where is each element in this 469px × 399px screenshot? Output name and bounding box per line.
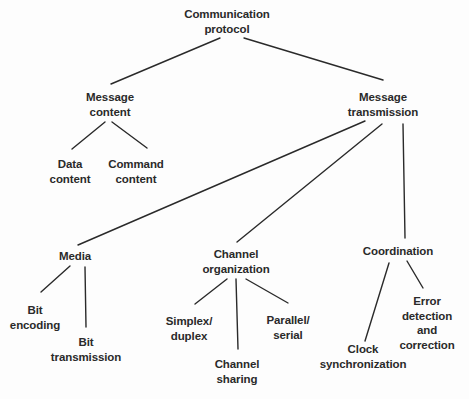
- edge-coordination-error-detection: [407, 261, 423, 288]
- node-bit-encoding: Bit encoding: [10, 303, 60, 332]
- node-channel-organization: Channel organization: [202, 247, 269, 276]
- node-bit-transmission: Bit transmission: [51, 335, 121, 364]
- edge-message-transmission-channel-organization: [237, 124, 382, 242]
- edge-message-content-data-content: [72, 122, 105, 149]
- node-communication-protocol: Communication protocol: [184, 7, 270, 36]
- node-media: Media: [59, 249, 91, 264]
- edge-channel-organization-parallel-serial: [246, 279, 288, 303]
- edge-message-content-command-content: [112, 122, 147, 148]
- node-coordination: Coordination: [363, 244, 433, 259]
- node-data-content: Data content: [50, 157, 91, 186]
- edge-channel-organization-simplex-duplex: [195, 279, 227, 304]
- edge-coordination-clock-synchronization: [365, 263, 389, 341]
- edge-root-message-transmission: [244, 38, 383, 80]
- edge-media-bit-transmission: [85, 267, 86, 327]
- edge-message-transmission-coordination: [403, 124, 405, 238]
- node-message-transmission: Message transmission: [348, 90, 418, 119]
- edge-media-bit-encoding: [41, 266, 70, 292]
- node-simplex-duplex: Simplex/ duplex: [166, 314, 213, 343]
- node-parallel-serial: Parallel/ serial: [266, 313, 309, 342]
- node-error-detection-and-correction: Error detection and correction: [399, 294, 454, 352]
- edge-channel-organization-channel-sharing: [236, 279, 238, 349]
- node-message-content: Message content: [86, 90, 134, 119]
- node-channel-sharing: Channel sharing: [215, 357, 260, 386]
- node-command-content: Command content: [108, 157, 164, 186]
- node-clock-synchronization: Clock synchronization: [320, 342, 407, 371]
- edge-root-message-content: [111, 38, 220, 84]
- protocol-tree-diagram: Communication protocol Message content M…: [0, 0, 469, 399]
